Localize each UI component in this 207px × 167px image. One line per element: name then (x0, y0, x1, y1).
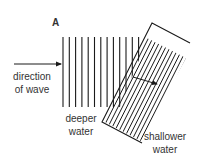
panel-label: A (52, 17, 59, 28)
direction-label-line1: direction (13, 71, 51, 82)
shallower-water-label-line1: shallower (144, 131, 187, 142)
shallow-region-boundary (102, 23, 190, 143)
wave-refraction-diagram: A direction of wave deeper water shallow… (0, 0, 207, 167)
direction-label-line2: of wave (15, 84, 50, 95)
deeper-water-label-line2: water (68, 126, 94, 137)
shallower-water-label-line2: water (152, 144, 178, 155)
deeper-water-label-line1: deeper (65, 113, 97, 124)
